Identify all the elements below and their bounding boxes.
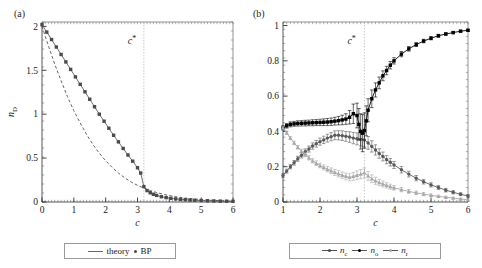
data-point-marker <box>285 169 288 172</box>
data-point-marker <box>285 124 288 127</box>
data-point-marker <box>392 163 395 166</box>
legend-item-n-r[interactable]: nr <box>383 245 408 257</box>
data-point-marker <box>322 121 325 124</box>
data-point-marker <box>322 138 325 141</box>
legend-item-theory[interactable]: theory <box>88 246 129 256</box>
data-point-marker <box>139 171 142 174</box>
data-point-marker <box>363 129 366 132</box>
data-point-marker <box>459 193 462 196</box>
data-point-marker <box>231 200 234 203</box>
x-axis-label: c <box>135 217 140 228</box>
svg-text:c*: c* <box>128 34 136 47</box>
legend-label: no <box>370 245 378 257</box>
data-point-marker <box>466 29 469 32</box>
x-tick-label: 1 <box>281 205 286 215</box>
data-point-marker <box>117 140 120 143</box>
x-tick-label: 4 <box>392 205 397 215</box>
legend-line-icon <box>88 251 103 252</box>
series-n-r <box>281 126 470 202</box>
series-theory <box>42 26 233 201</box>
data-point-marker <box>315 142 318 145</box>
data-point-marker <box>50 38 53 41</box>
data-point-marker <box>296 122 299 125</box>
legend-item-n-o[interactable]: no <box>352 245 378 257</box>
data-point-marker <box>318 121 321 124</box>
data-point-marker <box>69 68 72 71</box>
data-point-marker <box>88 98 91 101</box>
data-point-marker <box>131 159 134 162</box>
data-point-marker <box>225 200 228 203</box>
legend-label: nc <box>340 245 347 257</box>
data-point-marker <box>429 183 432 186</box>
data-point-marker <box>355 114 358 117</box>
legend-line-marker-icon <box>352 250 367 251</box>
data-point-marker <box>193 199 196 202</box>
legend-label: BP <box>140 246 151 256</box>
data-point-marker <box>281 174 284 177</box>
data-point-marker <box>348 116 351 119</box>
data-point-marker <box>422 39 425 42</box>
critical-point-annotation: c* <box>128 34 136 47</box>
panel-a: (a) 012345600.511.52cnDc* theoryBP <box>0 0 241 268</box>
data-point-marker <box>341 134 344 137</box>
data-point-marker <box>145 189 148 192</box>
svg-text:c*: c* <box>347 34 355 47</box>
data-point-marker <box>373 179 377 183</box>
data-point-marker <box>188 198 191 201</box>
data-point-marker <box>292 122 295 125</box>
y-tick-label: 2 <box>33 22 38 32</box>
data-point-marker <box>45 30 48 33</box>
data-point-marker <box>149 191 152 194</box>
panel-a-plot: 012345600.511.52cnDc* <box>0 0 241 268</box>
data-point-marker <box>311 144 314 147</box>
data-point-marker <box>79 83 82 86</box>
data-point-marker <box>370 97 373 100</box>
data-point-marker <box>385 158 388 161</box>
x-tick-label: 5 <box>429 205 434 215</box>
data-point-marker <box>437 34 440 37</box>
data-point-marker <box>83 90 86 93</box>
data-point-marker <box>289 165 292 168</box>
data-point-marker <box>199 199 202 202</box>
legend-dot-icon <box>134 250 137 253</box>
data-point-marker <box>307 147 310 150</box>
data-point-marker <box>318 140 321 143</box>
data-point-marker <box>174 197 177 200</box>
data-point-marker <box>121 147 124 150</box>
data-point-marker <box>314 161 318 165</box>
x-tick-label: 5 <box>199 205 204 215</box>
data-point-marker <box>392 59 395 62</box>
data-point-marker <box>40 23 43 26</box>
panel-b-legend: ncnonr <box>289 243 441 259</box>
series-bp <box>40 23 234 203</box>
y-tick-label: 0 <box>274 197 279 207</box>
data-point-marker <box>374 148 377 151</box>
data-point-marker <box>315 121 318 124</box>
data-point-marker <box>452 191 455 194</box>
data-point-marker <box>365 119 368 122</box>
data-point-marker <box>126 153 129 156</box>
data-point-marker <box>352 112 355 115</box>
svg-text:nD: nD <box>5 107 18 117</box>
data-point-marker <box>415 176 418 179</box>
data-point-marker <box>322 165 326 169</box>
data-point-marker <box>452 31 455 34</box>
x-tick-label: 1 <box>71 205 76 215</box>
data-point-marker <box>400 168 403 171</box>
data-point-marker <box>179 198 182 201</box>
data-point-marker <box>459 29 462 32</box>
legend-item-bp[interactable]: BP <box>134 246 151 256</box>
data-point-marker <box>333 134 336 137</box>
legend-item-n-c[interactable]: nc <box>322 245 347 257</box>
x-tick-label: 6 <box>231 205 236 215</box>
data-point-marker <box>348 135 351 138</box>
data-point-marker <box>415 43 418 46</box>
data-point-marker <box>74 75 77 78</box>
data-point-marker <box>152 193 155 196</box>
data-point-marker <box>102 120 105 123</box>
data-point-marker <box>385 69 388 72</box>
data-point-marker <box>333 119 336 122</box>
data-point-marker <box>304 121 307 124</box>
figure-container: (a) 012345600.511.52cnDc* theoryBP (b) 1… <box>0 0 482 268</box>
data-point-marker <box>169 197 172 200</box>
